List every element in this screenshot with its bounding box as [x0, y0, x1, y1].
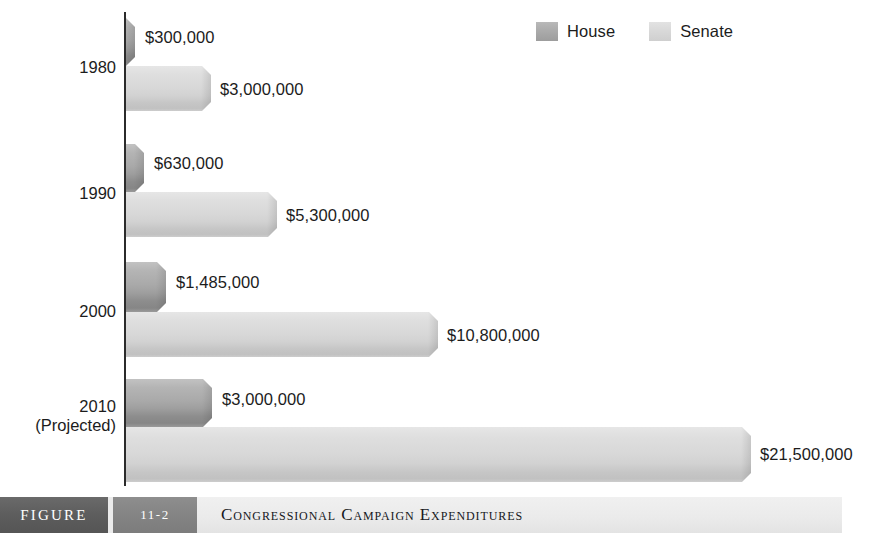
bar-1980-house: [126, 18, 135, 66]
figure-caption-bar: FIGURE 11-2 Congressional Campaign Expen…: [0, 497, 842, 533]
house-swatch-icon: [536, 22, 558, 41]
bar-value-2000-house: $1,485,000: [176, 273, 260, 292]
senate-swatch-icon: [649, 22, 671, 41]
bar-value-2010-senate: $21,500,000: [760, 445, 853, 464]
bar-2000-senate: [126, 312, 438, 357]
bar-2010-senate: [126, 427, 751, 482]
bar-1980-senate: [126, 66, 211, 111]
legend-item-senate: Senate: [649, 22, 733, 41]
legend-label-house: House: [567, 22, 615, 41]
bar-value-2000-senate: $10,800,000: [447, 326, 540, 345]
figure-label-box: FIGURE: [0, 497, 108, 533]
category-label-1990-line1: 1990: [79, 184, 116, 202]
chart-legend: House Senate: [536, 22, 733, 41]
bar-value-1990-senate: $5,300,000: [286, 206, 370, 225]
figure-number-box: 11-2: [113, 497, 197, 533]
bar-2010-house: [126, 379, 212, 427]
category-label-2000-line1: 2000: [79, 302, 116, 320]
legend-label-senate: Senate: [680, 22, 733, 41]
bar-value-1990-house: $630,000: [154, 154, 224, 173]
bar-1990-house: [126, 144, 144, 192]
legend-item-house: House: [536, 22, 615, 41]
figure-container: House Senate 1980 $300,000 $3,000,000: [0, 0, 880, 555]
category-label-1980: 1980: [0, 58, 116, 77]
bar-value-1980-house: $300,000: [145, 28, 215, 47]
bar-value-1980-senate: $3,000,000: [220, 80, 304, 99]
category-label-2000: 2000: [0, 302, 116, 321]
bar-2000-house: [126, 262, 166, 312]
chart-plot-area: House Senate 1980 $300,000 $3,000,000: [0, 0, 880, 490]
figure-title: Congressional Campaign Expenditures: [197, 497, 842, 533]
bar-value-2010-house: $3,000,000: [222, 390, 306, 409]
y-axis-line: [124, 12, 126, 486]
category-label-2010-line1: 2010: [79, 397, 116, 415]
category-label-1980-line1: 1980: [79, 58, 116, 76]
bar-1990-senate: [126, 192, 277, 237]
category-label-2010-line2: (Projected): [0, 416, 116, 435]
category-label-1990: 1990: [0, 184, 116, 203]
category-label-2010: 2010 (Projected): [0, 397, 116, 435]
